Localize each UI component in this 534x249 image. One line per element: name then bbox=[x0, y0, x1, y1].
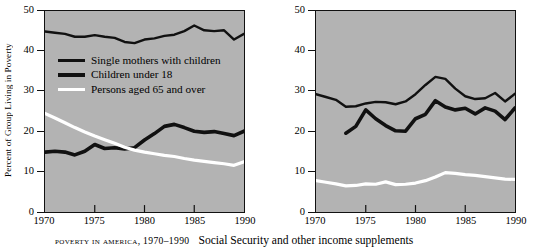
legend-item-single-mothers: Single mothers with children bbox=[58, 53, 221, 68]
y-tick-label-right-50: 50 bbox=[283, 5, 305, 16]
y-tick-label-right-40: 40 bbox=[283, 45, 305, 56]
y-tick-left-50 bbox=[37, 10, 44, 11]
y-tick-right-20 bbox=[308, 131, 315, 132]
x-tick-label-left-1980: 1980 bbox=[128, 216, 162, 227]
x-tick-label-left-1990: 1990 bbox=[228, 216, 262, 227]
y-tick-label-left-20: 20 bbox=[12, 126, 34, 137]
y-tick-right-0 bbox=[308, 212, 315, 213]
y-tick-right-40 bbox=[308, 50, 315, 51]
series-line-black bbox=[316, 77, 515, 107]
x-tick-label-right-1990: 1990 bbox=[499, 216, 533, 227]
x-tick-label-right-1980: 1980 bbox=[399, 216, 433, 227]
legend-label-single-mothers: Single mothers with children bbox=[91, 55, 221, 66]
series-line-white bbox=[316, 173, 515, 186]
x-tick-marks-right bbox=[366, 205, 466, 212]
y-tick-left-30 bbox=[37, 90, 44, 91]
y-tick-label-right-20: 20 bbox=[283, 126, 305, 137]
figure-caption: POVERTY IN AMERICA, 1970–1990 Social Sec… bbox=[55, 232, 525, 248]
y-tick-left-10 bbox=[37, 171, 44, 172]
legend-left: Single mothers with children Children un… bbox=[58, 53, 221, 97]
series-line-single-mothers-with-children bbox=[45, 25, 244, 43]
x-tick-marks-left bbox=[95, 205, 195, 212]
plot-area-left bbox=[44, 10, 245, 213]
chart-panel-right: Percent of Group Living in Poverty 0 10 … bbox=[270, 0, 534, 232]
legend-label-children: Children under 18 bbox=[91, 69, 172, 80]
x-tick-label-left-1985: 1985 bbox=[178, 216, 212, 227]
y-tick-left-0 bbox=[37, 212, 44, 213]
legend-swatch-icon-single-mothers bbox=[58, 59, 85, 62]
y-tick-label-right-30: 30 bbox=[283, 85, 305, 96]
x-tick-label-right-1975: 1975 bbox=[348, 216, 382, 227]
y-tick-label-left-10: 10 bbox=[12, 166, 34, 177]
x-tick-label-left-1970: 1970 bbox=[27, 216, 61, 227]
x-tick-label-right-1985: 1985 bbox=[449, 216, 483, 227]
y-tick-right-30 bbox=[308, 90, 315, 91]
y-tick-left-40 bbox=[37, 50, 44, 51]
x-tick-label-left-1975: 1975 bbox=[77, 216, 111, 227]
y-tick-label-left-40: 40 bbox=[12, 45, 34, 56]
y-tick-right-50 bbox=[308, 10, 315, 11]
y-tick-label-right-10: 10 bbox=[283, 166, 305, 177]
y-tick-right-10 bbox=[308, 171, 315, 172]
plot-area-right bbox=[315, 10, 516, 213]
plot-lines-right bbox=[316, 11, 515, 212]
y-tick-left-20 bbox=[37, 131, 44, 132]
caption-subtitle: Social Security and other income supplem… bbox=[198, 234, 413, 247]
caption-title: POVERTY IN AMERICA, 1970–1990 bbox=[55, 235, 189, 246]
y-tick-label-left-30: 30 bbox=[12, 85, 34, 96]
legend-item-children: Children under 18 bbox=[58, 68, 221, 83]
x-tick-label-right-1970: 1970 bbox=[298, 216, 332, 227]
y-axis-label-left: Percent of Group Living in Poverty bbox=[1, 8, 15, 213]
plot-lines-left bbox=[45, 11, 244, 212]
legend-swatch-icon-elderly bbox=[58, 88, 85, 91]
series-line-hispanic bbox=[346, 101, 515, 134]
chart-panel-left: Percent of Group Living in Poverty 0 10 … bbox=[0, 0, 258, 232]
legend-item-elderly: Persons aged 65 and over bbox=[58, 82, 221, 97]
y-tick-label-left-50: 50 bbox=[12, 5, 34, 16]
poverty-figure: Percent of Group Living in Poverty 0 10 … bbox=[0, 0, 534, 249]
legend-swatch-icon-children bbox=[58, 73, 85, 77]
legend-label-elderly: Persons aged 65 and over bbox=[91, 84, 205, 95]
